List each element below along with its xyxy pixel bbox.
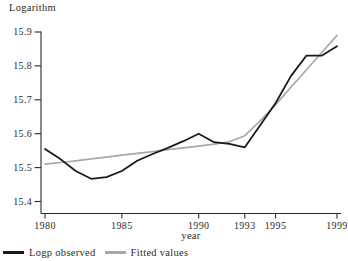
x-tick-label: 1980 <box>34 220 56 231</box>
line-chart-canvas: 15.415.515.615.715.815.91980198519901993… <box>0 0 348 246</box>
y-tick-label: 15.5 <box>13 162 32 173</box>
y-tick-label: 15.7 <box>13 94 32 105</box>
y-tick-label: 15.6 <box>13 128 32 139</box>
x-tick-label: 1995 <box>265 220 287 231</box>
chart-figure: Logarithm 15.415.515.615.715.815.9198019… <box>0 0 348 261</box>
x-tick-label: 1993 <box>234 220 256 231</box>
legend-item-fitted-values: Fitted values <box>105 247 189 258</box>
y-tick-label: 15.8 <box>13 60 32 71</box>
x-tick-label: 1999 <box>326 220 348 231</box>
legend-item-logp-observed: Logp observed <box>3 247 96 258</box>
series-line-fitted-values <box>45 35 337 164</box>
y-tick-label: 15.9 <box>13 26 32 37</box>
fitted-line-swatch-icon <box>105 251 126 253</box>
y-tick-label: 15.4 <box>13 196 32 207</box>
legend-label-fitted-values: Fitted values <box>131 247 189 258</box>
x-tick-label: 1985 <box>111 220 133 231</box>
observed-line-swatch-icon <box>3 251 24 253</box>
chart-legend: Logp observed Fitted values <box>3 247 188 258</box>
x-axis-title: year <box>41 230 341 241</box>
legend-label-logp-observed: Logp observed <box>29 247 96 258</box>
x-tick-label: 1990 <box>188 220 210 231</box>
